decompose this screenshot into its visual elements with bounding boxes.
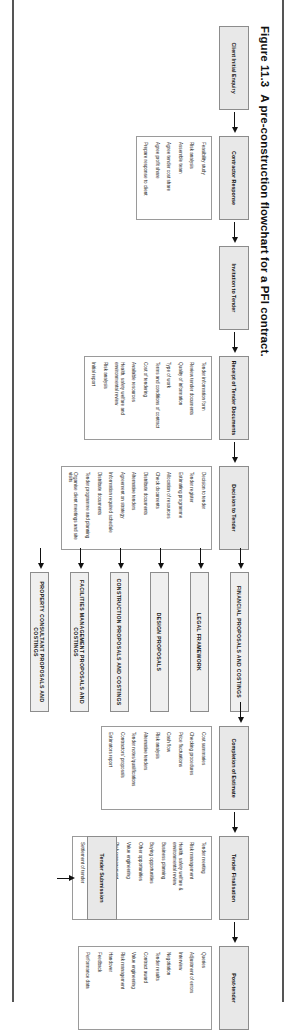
stage-invitation-to-tender[interactable]: Invitation to Tender bbox=[219, 246, 249, 330]
flowchart: Client Initial Enquiry Contractor Respon… bbox=[21, 26, 249, 976]
list-item: Settlement of tender bbox=[79, 842, 84, 914]
stage-item-list: Cost summaries Checking procedures Price… bbox=[101, 726, 212, 810]
arrow-band-out-1 bbox=[239, 702, 241, 724]
stage-header: Invitation to Tender bbox=[219, 246, 249, 330]
arrow-band-5 bbox=[79, 548, 81, 570]
figure-number: Figure 11.3 bbox=[259, 26, 271, 87]
band-legal-framework[interactable]: LEGAL FRAMEWORK bbox=[190, 572, 209, 712]
stage-header: Client Initial Enquiry bbox=[219, 26, 249, 110]
list-item: Performance data bbox=[85, 952, 90, 1024]
list-item: Tender results bbox=[154, 952, 159, 1024]
list-item: Health, safety welfare & environmental r… bbox=[172, 842, 183, 914]
list-item: Other opportunities bbox=[137, 842, 142, 914]
list-item: Negotiation bbox=[166, 952, 171, 1024]
list-item: Type of work bbox=[166, 362, 171, 434]
arrow-right-1 bbox=[233, 112, 235, 134]
stage-contractor-response[interactable]: Contractor Response Feasibility study Ri… bbox=[136, 136, 249, 220]
stage-header: Contractor Response bbox=[219, 136, 249, 220]
band-facilities-management-proposals-and-costings[interactable]: FACILITIES MANAGEMENT PROPOSALS AND COST… bbox=[70, 572, 89, 712]
arrow-band-1 bbox=[239, 548, 241, 570]
stage-header: Tender Finalisation bbox=[219, 836, 249, 920]
list-item: Tender programme and planning bbox=[85, 472, 90, 544]
list-item: Cash flow bbox=[166, 732, 171, 804]
figure-caption-text: A pre-construction flowchart for a PFI c… bbox=[259, 87, 271, 357]
arrow-right-6 bbox=[233, 922, 235, 944]
list-item: Price fluctuations bbox=[177, 732, 182, 804]
list-item: Buying opportunities bbox=[149, 842, 154, 914]
stage-item-list: Queries Adjustment of errors Interview N… bbox=[78, 946, 212, 1030]
stage-receipt-of-tender-documents[interactable]: Receipt of Tender Documents Tender infor… bbox=[84, 356, 249, 440]
list-item: Distribute documents bbox=[96, 472, 101, 544]
tender-submission-box[interactable]: Tender Submission bbox=[87, 836, 117, 920]
arrow-right-2 bbox=[233, 222, 235, 244]
list-item: Agree tender cost share bbox=[166, 142, 171, 214]
stage-header: Receipt of Tender Documents bbox=[219, 356, 249, 440]
stage-item-list: Tender information form Review tender do… bbox=[84, 356, 212, 440]
list-item: Tender register bbox=[189, 472, 194, 544]
list-item: Assemble team bbox=[177, 142, 182, 214]
stage-client-initial-enquiry[interactable]: Client Initial Enquiry bbox=[219, 26, 249, 110]
list-item: Initial report bbox=[91, 362, 96, 434]
band-financial-proposals-and-costings[interactable]: FINANCIAL PROPOSALS AND COSTINGS bbox=[230, 572, 249, 712]
list-item: Estimating programme bbox=[177, 472, 182, 544]
arrow-band-2 bbox=[199, 548, 201, 570]
list-item: Prepare response to client bbox=[143, 142, 148, 214]
stage-header: Post-tender bbox=[219, 946, 249, 1030]
list-item: Value engineering bbox=[131, 952, 136, 1024]
list-item: Decision to tender bbox=[201, 472, 206, 544]
list-item: Agreement on strategy bbox=[119, 472, 124, 544]
stage-header: Decision to Tender bbox=[219, 466, 249, 550]
list-item: Risk management bbox=[119, 952, 124, 1024]
list-item: Feedback bbox=[96, 952, 101, 1024]
stage-header: Completion of Estimate bbox=[219, 726, 249, 810]
list-item: Quality of information bbox=[177, 362, 182, 434]
figure-caption: Figure 11.3A pre-construction flowchart … bbox=[259, 26, 271, 357]
list-item: Feasibility study bbox=[201, 142, 206, 214]
list-item: Check documents bbox=[154, 472, 159, 544]
list-item: Queries bbox=[201, 952, 206, 1024]
stage-item-list: Feasibility study Risk analysis Assemble… bbox=[136, 136, 212, 220]
list-item: Available resources bbox=[131, 362, 136, 434]
band-design-proposals[interactable]: DESIGN PROPOSALS bbox=[150, 572, 169, 712]
list-item: Handover bbox=[108, 952, 113, 1024]
list-item: Distribute documents bbox=[143, 472, 148, 544]
stage-item-list: Decision to tender Tender register Estim… bbox=[61, 466, 212, 550]
arrow-band-3 bbox=[159, 548, 161, 570]
band-construction-proposals-and-costings[interactable]: CONSTRUCTION PROPOSALS AND COSTINGS bbox=[110, 572, 129, 712]
list-item: Tender notes/qualifications bbox=[131, 732, 136, 804]
stage-completion-of-estimate[interactable]: Completion of Estimate Cost summaries Ch… bbox=[101, 726, 249, 810]
list-item: Business planning bbox=[160, 842, 165, 914]
list-item: Cost of tendering bbox=[143, 362, 148, 434]
stage-decision-to-tender[interactable]: Decision to Tender Decision to tender Te… bbox=[61, 466, 249, 550]
list-item: Health, safety welfare and environmental… bbox=[114, 362, 125, 434]
stage-post-tender[interactable]: Post-tender Queries Adjustment of errors… bbox=[78, 946, 249, 1030]
list-item: Terms and conditions of contract bbox=[154, 362, 159, 434]
band-property-consultant-proposals-and-costings[interactable]: PROPERTY CONSULTANT PROPOSALS AND COSTIN… bbox=[30, 572, 49, 712]
list-item: Review tender documents bbox=[189, 362, 194, 434]
list-item: Agree profit share bbox=[154, 142, 159, 214]
list-item: Checking procedures bbox=[189, 732, 194, 804]
list-item: Risk analysis bbox=[189, 142, 194, 214]
page-rule-top bbox=[282, 0, 284, 1002]
arrow-band-6 bbox=[39, 548, 41, 570]
list-item: Contract award bbox=[143, 952, 148, 1024]
list-item: Cost summaries bbox=[201, 732, 206, 804]
list-item: Alternative tenders bbox=[143, 732, 148, 804]
list-item: Adjustment of errors bbox=[189, 952, 194, 1024]
list-item: Information required schedule bbox=[108, 472, 113, 544]
list-item: Risk analysis bbox=[154, 732, 159, 804]
list-item: Interview bbox=[177, 952, 182, 1024]
arrow-band-4 bbox=[119, 548, 121, 570]
arrow-right-3 bbox=[233, 332, 235, 354]
list-item: Value engineering bbox=[126, 842, 131, 914]
list-item: Contractors' proposals bbox=[119, 732, 124, 804]
arrow-up-tender-submission bbox=[57, 878, 75, 880]
page-rule-bottom bbox=[12, 0, 14, 1002]
list-item: Allocation of resources bbox=[166, 472, 171, 544]
list-item: Tender meeting bbox=[201, 842, 206, 914]
list-item: Risk management bbox=[189, 842, 194, 914]
list-item: Estimators report bbox=[108, 732, 113, 804]
list-item: Risk analysis bbox=[102, 362, 107, 434]
